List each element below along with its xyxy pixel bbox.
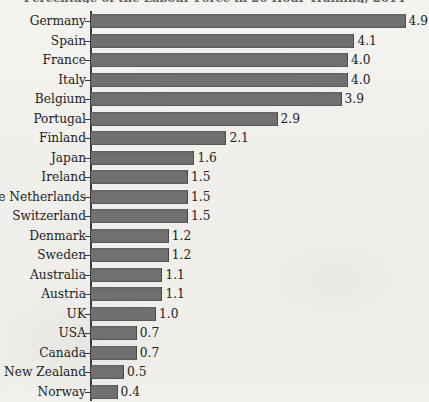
axis-tick [85,294,90,295]
category-label: New Zealand [4,363,86,383]
bar [91,268,162,282]
bar [91,248,169,262]
category-label: Italy [58,71,86,91]
axis-tick [85,60,90,61]
bar [91,346,137,360]
category-label: Australia [30,266,86,286]
category-label: Germany [30,12,86,32]
plot-area: Germany4.9Spain4.1France4.0Italy4.0Belgi… [0,11,429,391]
axis-tick [85,372,90,373]
bar [91,92,342,106]
bar-row: France4.0 [0,51,429,71]
bar [91,209,188,223]
bar-row: Norway0.4 [0,383,429,402]
bar-value-label: 0.7 [140,324,159,344]
bar-value-label: 4.0 [351,71,370,91]
category-label: Austria [41,285,86,305]
bar-value-label: 1.2 [172,246,191,266]
chart-title: Percentage of the Labour Force in 20 Hou… [0,0,429,3]
bar [91,151,194,165]
bar [91,385,118,399]
axis-tick [85,314,90,315]
category-label: Ireland [41,168,86,188]
bar [91,53,348,67]
axis-tick [85,275,90,276]
bar-value-label: 1.2 [172,227,191,247]
axis-tick [85,392,90,393]
bar [91,34,354,48]
bar-row: Germany4.9 [0,12,429,32]
bar [91,326,137,340]
bar-row: Switzerland1.5 [0,207,429,227]
bar [91,229,169,243]
axis-tick [85,353,90,354]
category-label: Denmark [29,227,86,247]
bar-value-label: 2.1 [229,129,248,149]
axis-tick [85,138,90,139]
bar [91,170,188,184]
bar-row: Australia1.1 [0,266,429,286]
bar-value-label: 0.4 [121,383,140,402]
bar-row: Canada0.7 [0,344,429,364]
bar [91,287,162,301]
axis-tick [85,333,90,334]
bar-row: Japan1.6 [0,149,429,169]
category-label: Norway [38,383,86,402]
bar-row: Ireland1.5 [0,168,429,188]
category-label: Portugal [33,110,86,130]
axis-tick [85,216,90,217]
axis-tick [85,80,90,81]
category-label: France [43,51,86,71]
category-label: The Netherlands [0,188,86,208]
category-label: Switzerland [12,207,86,227]
bar [91,14,406,28]
bar-value-label: 0.5 [127,363,146,383]
bar-row: Sweden1.2 [0,246,429,266]
bar-value-label: 3.9 [345,90,364,110]
bar-row: The Netherlands1.5 [0,188,429,208]
bar-row: USA0.7 [0,324,429,344]
bar-row: Italy4.0 [0,71,429,91]
category-label: Spain [51,32,86,52]
category-label: Belgium [35,90,86,110]
bar-value-label: 0.7 [140,344,159,364]
bar-row: New Zealand0.5 [0,363,429,383]
bar-value-label: 1.5 [191,168,210,188]
axis-tick [85,41,90,42]
bar-row: Austria1.1 [0,285,429,305]
bar-row: UK1.0 [0,305,429,325]
bar-value-label: 4.1 [357,32,376,52]
axis-tick [85,119,90,120]
axis-tick [85,21,90,22]
bar-value-label: 2.9 [281,110,300,130]
bar [91,73,348,87]
bar-row: Belgium3.9 [0,90,429,110]
category-label: UK [67,305,86,325]
bar-value-label: 1.0 [159,305,178,325]
category-label: Sweden [37,246,86,266]
axis-tick [85,177,90,178]
bar-row: Portugal2.9 [0,110,429,130]
bar-row: Spain4.1 [0,32,429,52]
bar-row: Finland2.1 [0,129,429,149]
bar-value-label: 1.6 [197,149,216,169]
bar-value-label: 4.9 [409,12,428,32]
bar [91,307,156,321]
bar-value-label: 1.1 [165,285,184,305]
bar-value-label: 1.5 [191,188,210,208]
bar-value-label: 4.0 [351,51,370,71]
axis-tick [85,158,90,159]
bar [91,190,188,204]
axis-tick [85,236,90,237]
bar [91,112,278,126]
bar [91,365,124,379]
axis-tick [85,255,90,256]
category-label: Finland [39,129,86,149]
bar-value-label: 1.1 [165,266,184,286]
category-label: USA [59,324,86,344]
axis-tick [85,99,90,100]
bar [91,131,226,145]
category-label: Canada [39,344,86,364]
bar-row: Denmark1.2 [0,227,429,247]
bar-value-label: 1.5 [191,207,210,227]
